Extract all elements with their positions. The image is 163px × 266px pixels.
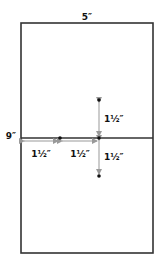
measurement-horizontal-middle: 1½″: [70, 149, 90, 159]
point-center: [97, 136, 101, 140]
measurement-vertical-up: 1½″: [104, 114, 124, 124]
point-left: [58, 136, 62, 140]
height-label: 9″: [6, 131, 16, 141]
measurement-horizontal-left: 1½″: [31, 149, 51, 159]
measurement-vertical-down: 1½″: [104, 152, 124, 162]
point-bottom: [97, 174, 101, 178]
diagram-canvas: 5″ 9″ 1½″ 1½″ 1½″ 1½″: [0, 0, 163, 266]
width-label: 5″: [82, 12, 92, 22]
point-top: [97, 98, 101, 102]
